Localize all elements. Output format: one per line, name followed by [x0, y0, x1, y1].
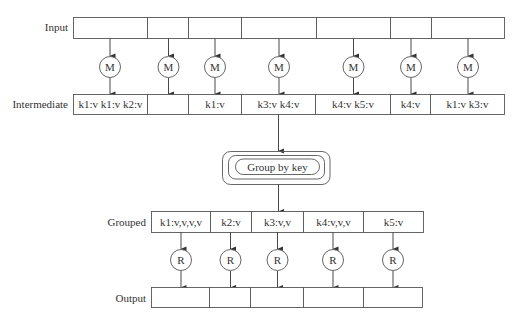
reduce-node-label: R: [177, 254, 185, 266]
intermediate-cell-text: k3:v k4:v: [258, 98, 300, 110]
row-label-grouped: Grouped: [108, 216, 147, 228]
map-node-label: M: [349, 61, 359, 73]
output-row: [152, 288, 423, 308]
grouped-row: k1:v,v,v,v k2:v k3:v,v k4:v,v,v k5:v: [152, 212, 424, 233]
output-cell: [152, 288, 210, 308]
input-cell: [148, 18, 189, 39]
row-label-input: Input: [45, 21, 68, 33]
group-by-key-step: Group by key: [223, 152, 331, 185]
reduce-node-label: R: [274, 254, 282, 266]
group-by-key-label: Group by key: [247, 161, 308, 173]
input-cell: [74, 18, 148, 39]
input-cell: [391, 18, 432, 39]
map-node-label: M: [210, 61, 220, 73]
input-cell: [432, 18, 505, 39]
mapreduce-diagram: Input Intermediate Grouped Output M M M …: [0, 0, 522, 321]
reduce-node-label: R: [389, 254, 397, 266]
grouped-cell-text: k4:v,v,v: [316, 216, 351, 228]
grouped-cell-text: k2:v: [221, 216, 241, 228]
output-cell: [210, 288, 251, 308]
intermediate-cell-text: k4:v k5:v: [332, 98, 374, 110]
input-row: [74, 18, 505, 39]
intermediate-cell: [148, 95, 189, 115]
grouped-cell-text: k5:v: [384, 216, 404, 228]
map-node-label: M: [463, 61, 473, 73]
map-node-label: M: [105, 61, 115, 73]
reduce-stage: R R R R R: [171, 233, 404, 288]
reduce-node-label: R: [329, 254, 337, 266]
grouped-cell-text: k3:v,v: [264, 216, 292, 228]
intermediate-cell-text: k1:v: [205, 98, 225, 110]
intermediate-cell-text: k1:v k3:v: [447, 98, 489, 110]
intermediate-row: k1:v k1:v k2:v k1:v k3:v k4:v k4:v k5:v …: [74, 95, 505, 115]
intermediate-cell-text: k4:v: [401, 98, 421, 110]
output-cell: [251, 288, 304, 308]
intermediate-cell-text: k1:v k1:v k2:v: [78, 98, 143, 110]
map-node-label: M: [406, 61, 416, 73]
input-cell: [317, 18, 391, 39]
map-node-label: M: [164, 61, 174, 73]
input-cell: [189, 18, 242, 39]
map-stage: M M M M M M M: [100, 39, 479, 95]
output-cell: [304, 288, 364, 308]
row-label-output: Output: [115, 292, 146, 304]
grouped-cell-text: k1:v,v,v,v: [160, 216, 203, 228]
reduce-node-label: R: [227, 254, 235, 266]
output-cell: [364, 288, 423, 308]
row-label-intermediate: Intermediate: [12, 98, 68, 110]
map-node-label: M: [274, 61, 284, 73]
input-cell: [242, 18, 317, 39]
